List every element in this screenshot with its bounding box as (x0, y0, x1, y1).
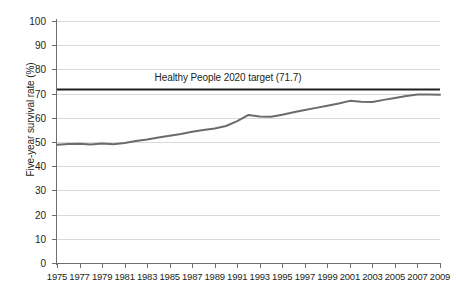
y-tick-label: 0 (0, 258, 46, 269)
y-tick-label: 30 (0, 185, 46, 196)
x-tick-mark (215, 263, 216, 268)
x-tick-mark (147, 263, 148, 268)
x-tick-mark (57, 263, 58, 268)
y-tick-label: 10 (0, 233, 46, 244)
y-tick-label: 40 (0, 161, 46, 172)
x-tick-mark (372, 263, 373, 268)
x-tick-mark (102, 263, 103, 268)
y-tick-label: 50 (0, 137, 46, 148)
x-tick-mark (305, 263, 306, 268)
x-tick-mark (440, 263, 441, 268)
x-tick-label: 2009 (420, 271, 456, 282)
x-tick-mark (237, 263, 238, 268)
target-line-label: Healthy People 2020 target (71.7) (0, 72, 456, 83)
x-tick-mark (192, 263, 193, 268)
x-tick-mark (80, 263, 81, 268)
x-tick-mark (395, 263, 396, 268)
y-tick-label: 60 (0, 112, 46, 123)
chart-container: Five-year survival rate (%) 010203040506… (0, 0, 456, 295)
x-tick-mark (170, 263, 171, 268)
x-tick-mark (125, 263, 126, 268)
series-line-five-year-survival-rate (57, 95, 440, 145)
x-tick-mark (260, 263, 261, 268)
y-tick-label: 100 (0, 16, 46, 27)
x-tick-mark (417, 263, 418, 268)
y-tick-label: 70 (0, 88, 46, 99)
data-series-layer (57, 21, 440, 263)
x-tick-mark (350, 263, 351, 268)
x-tick-mark (282, 263, 283, 268)
y-tick-label: 90 (0, 40, 46, 51)
x-axis-line (56, 263, 441, 264)
x-tick-mark (327, 263, 328, 268)
y-tick-label: 20 (0, 209, 46, 220)
